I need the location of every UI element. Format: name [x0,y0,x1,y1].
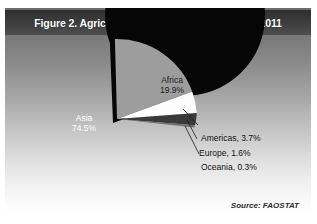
figure-container: Figure 2. Agricultural Population Distri… [0,0,317,224]
pie-label-europe: Europe, 1.6% [199,148,251,158]
pie-label-americas: Americas, 3.7% [201,133,261,143]
pie-label-asia-value: 74.5% [57,124,111,134]
chart-panel: Figure 2. Agricultural Population Distri… [5,8,311,218]
pie-label-asia: Asia 74.5% [57,114,111,134]
pie-chart [5,8,311,218]
pie-label-africa-value: 19.9% [145,86,199,96]
pie-chart-svg [5,8,311,218]
pie-label-africa: Africa 19.9% [145,76,199,96]
source-note: Source: FAOSTAT [231,201,299,210]
pie-label-oceania: Oceania, 0.3% [201,162,257,172]
